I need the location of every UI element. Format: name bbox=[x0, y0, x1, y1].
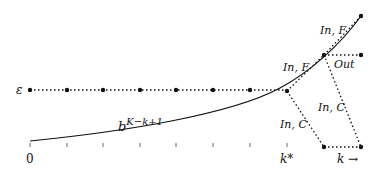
x-k-label: k → bbox=[337, 152, 358, 166]
x-origin-label: 0 bbox=[26, 152, 34, 166]
label-in-f-lower: In, F bbox=[282, 61, 309, 74]
label-in-c-lower: In, C bbox=[279, 118, 307, 131]
exponential-curve bbox=[30, 16, 361, 141]
curve-label: bK−k+1 bbox=[118, 116, 163, 134]
label-out: Out bbox=[334, 58, 355, 71]
epsilon-label: ε bbox=[16, 83, 22, 97]
label-in-c-upper: In, C bbox=[317, 101, 345, 114]
diagram-canvas: ε bK−k+1 In, F In, F Out In, C In, C 0 k… bbox=[0, 0, 380, 173]
label-in-f-upper: In, F bbox=[319, 24, 346, 37]
x-axis-ticks bbox=[30, 143, 287, 147]
x-kstar-label: k* bbox=[280, 152, 293, 166]
